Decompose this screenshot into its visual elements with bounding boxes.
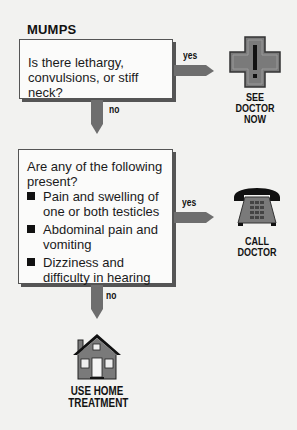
- list-item-text: Pain and swelling of one or both testicl…: [43, 189, 159, 219]
- list-item: Pain and swelling of one or both testicl…: [27, 189, 173, 219]
- see-doctor-now-caption: SEE DOCTOR NOW: [230, 92, 279, 125]
- yes-label-2: yes: [182, 197, 196, 208]
- question-1-text: Is there lethargy, convulsions, or stiff…: [28, 55, 168, 100]
- no-label-1: no: [109, 104, 119, 115]
- use-home-treatment-caption: USE HOME TREATMENT: [68, 385, 125, 409]
- house-icon: [72, 333, 122, 381]
- no-arrow-1: [90, 100, 104, 136]
- yes-label-1: yes: [183, 50, 197, 61]
- telephone-icon: [232, 183, 282, 229]
- yes-arrow-2: [174, 211, 216, 225]
- chart-title: MUMPS: [27, 22, 76, 37]
- caption-line: DOCTOR: [232, 247, 281, 258]
- list-item: Abdominal pain and vomiting: [27, 222, 173, 252]
- call-doctor-caption: CALL DOCTOR: [232, 236, 281, 258]
- symptom-list: Pain and swelling of one or both testicl…: [27, 189, 173, 288]
- caption-line: NOW: [230, 114, 279, 125]
- list-item-text: Dizziness and difficulty in hearing: [43, 255, 150, 285]
- yes-arrow-1: [174, 64, 216, 78]
- question-2-text: Are any of the following present?: [27, 159, 167, 189]
- bullet-icon: [27, 258, 35, 266]
- bullet-icon: [27, 192, 35, 200]
- bullet-icon: [27, 225, 35, 233]
- no-arrow-2: [90, 285, 104, 321]
- caption-line: TREATMENT: [68, 397, 125, 409]
- question-box-2: Are any of the following present? Pain a…: [18, 149, 173, 284]
- medical-cross-icon: [229, 36, 281, 88]
- list-item-text: Abdominal pain and vomiting: [43, 222, 158, 252]
- list-item: Dizziness and difficulty in hearing: [27, 255, 173, 285]
- question-box-1: Is there lethargy, convulsions, or stiff…: [19, 39, 173, 99]
- no-label-2: no: [106, 290, 116, 301]
